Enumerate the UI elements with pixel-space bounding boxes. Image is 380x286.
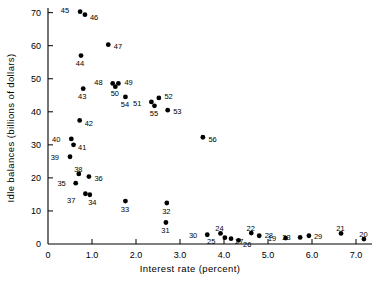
data-point	[87, 192, 92, 197]
data-point	[156, 96, 161, 101]
data-point	[152, 103, 157, 108]
data-point-label: 49	[124, 78, 132, 87]
data-point	[106, 42, 111, 47]
data-point-label: 19	[268, 234, 276, 243]
data-point-label: 36	[94, 174, 102, 183]
data-point-label: 52	[164, 92, 172, 101]
data-point	[307, 233, 312, 238]
data-point-label: 38	[74, 165, 82, 174]
y-tick-label: 50	[31, 74, 41, 84]
data-point-label: 21	[336, 224, 344, 233]
data-point-label: 25	[207, 237, 215, 246]
data-point-label: 22	[247, 224, 255, 233]
y-axis-title: Idle balances (billions of dollars)	[5, 53, 16, 202]
y-tick-label: 0	[36, 239, 41, 249]
data-point-label: 47	[114, 42, 122, 51]
data-point	[73, 181, 78, 186]
x-tick-label: 5.0	[262, 250, 275, 260]
data-point-label: 39	[51, 153, 59, 162]
data-point-label: 33	[121, 205, 129, 214]
data-point	[78, 9, 83, 14]
data-point-label: 50	[111, 89, 119, 98]
data-point-label: 30	[189, 231, 197, 240]
data-point-label: 20	[359, 230, 367, 239]
data-point	[83, 12, 88, 17]
data-point-label: 42	[85, 119, 93, 128]
data-point	[164, 220, 169, 225]
x-tick-label: 4.0	[218, 250, 231, 260]
chart-canvas: 01.02.03.04.05.06.07.0 010203040506070 4…	[0, 0, 380, 286]
data-point-label: 35	[57, 179, 65, 188]
data-point	[83, 191, 88, 196]
data-point-label: 40	[52, 135, 60, 144]
data-point-label: 56	[208, 135, 216, 144]
data-point	[222, 235, 227, 240]
data-point-label: 31	[161, 226, 169, 235]
data-point-label: 32	[162, 207, 170, 216]
data-point-label: 23	[282, 233, 290, 242]
x-tick-label: 0	[45, 250, 50, 260]
x-tick-label: 7.0	[350, 250, 363, 260]
data-point-label: 48	[94, 78, 102, 87]
data-point	[149, 99, 154, 104]
y-tick-labels: 010203040506070	[31, 8, 41, 249]
data-point	[200, 135, 205, 140]
data-point-label: 51	[133, 99, 141, 108]
data-point-label: 37	[67, 196, 75, 205]
data-points	[68, 9, 367, 243]
data-point	[69, 137, 74, 142]
data-point	[68, 154, 73, 159]
data-point-label: 45	[61, 6, 69, 15]
data-point-labels: 4546474448495043545251555342564041393836…	[51, 6, 368, 249]
data-point	[229, 236, 234, 241]
x-tick-label: 1.0	[86, 250, 99, 260]
scatter-chart: 01.02.03.04.05.06.07.0 010203040506070 4…	[0, 0, 380, 286]
y-tick-label: 40	[31, 107, 41, 117]
x-tick-label: 6.0	[306, 250, 319, 260]
data-point-label: 29	[314, 232, 322, 241]
data-point	[79, 53, 84, 58]
data-point	[164, 201, 169, 206]
tick-marks	[48, 13, 356, 244]
data-point-label: 34	[88, 198, 96, 207]
data-point	[71, 142, 76, 147]
y-tick-label: 60	[31, 41, 41, 51]
y-tick-label: 30	[31, 140, 41, 150]
data-point-label: 43	[78, 92, 86, 101]
data-point-label: 24	[215, 224, 223, 233]
data-point	[81, 86, 86, 91]
data-point	[257, 233, 262, 238]
data-point-label: 53	[173, 107, 181, 116]
y-tick-label: 70	[31, 8, 41, 18]
y-tick-label: 20	[31, 173, 41, 183]
data-point-label: 41	[78, 143, 86, 152]
data-point	[123, 95, 128, 100]
data-point-label: 26	[243, 240, 251, 249]
x-tick-label: 2.0	[130, 250, 143, 260]
data-point-label: 54	[121, 100, 129, 109]
data-point	[123, 199, 128, 204]
data-point-label: 55	[150, 109, 158, 118]
x-tick-labels: 01.02.03.04.05.06.07.0	[45, 250, 362, 260]
data-point	[165, 108, 170, 113]
x-axis-title: Interest rate (percent)	[140, 263, 241, 274]
x-tick-label: 3.0	[174, 250, 187, 260]
data-point	[87, 174, 92, 179]
data-point	[298, 235, 303, 240]
data-point-label: 46	[90, 13, 98, 22]
axes	[48, 8, 372, 244]
data-point-label: 44	[76, 59, 84, 68]
y-tick-label: 10	[31, 206, 41, 216]
data-point	[77, 118, 82, 123]
